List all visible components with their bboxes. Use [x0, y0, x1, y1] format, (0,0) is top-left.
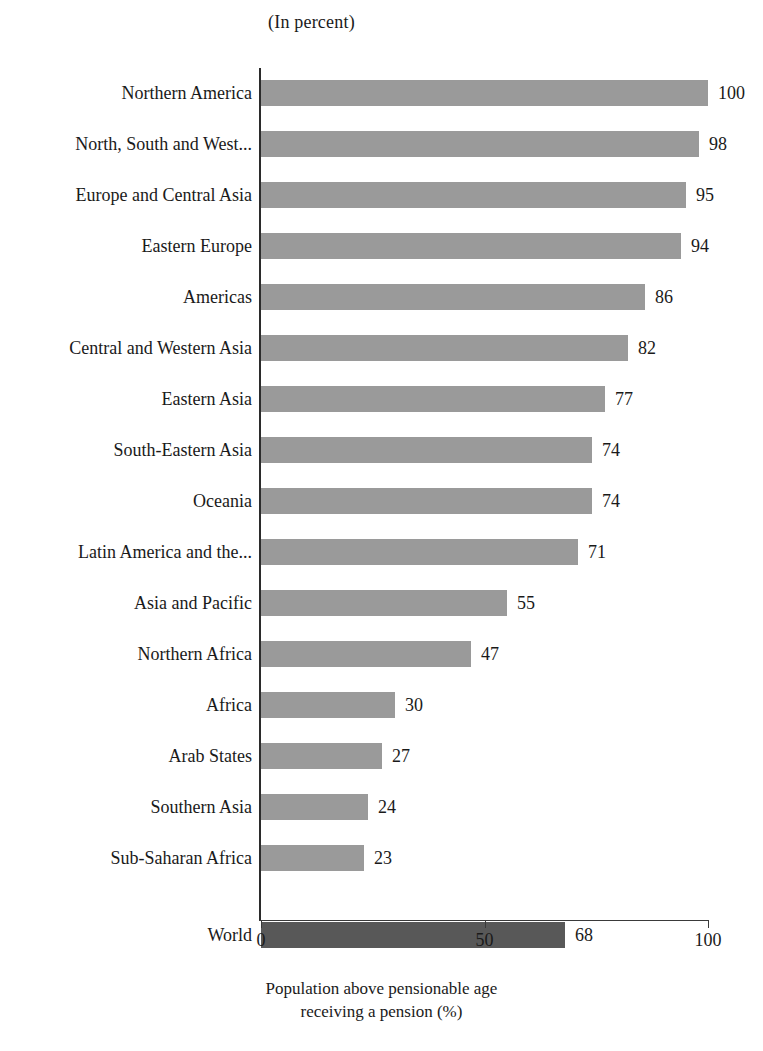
bar	[261, 590, 507, 616]
category-label: World	[207, 926, 252, 944]
bar-row: North, South and West...98	[0, 131, 763, 157]
x-axis-tick-label: 0	[257, 930, 266, 951]
bar-row: Southern Asia24	[0, 794, 763, 820]
bar	[261, 488, 592, 514]
category-label: Eastern Europe	[142, 237, 252, 255]
bar	[261, 233, 681, 259]
bar-value-label: 24	[378, 798, 396, 816]
bar-row: World68	[0, 922, 763, 948]
x-axis-caption-line-1: Population above pensionable age	[0, 978, 763, 1001]
category-label: Northern Africa	[138, 645, 252, 663]
bar-value-label: 95	[696, 186, 714, 204]
bar-row: Arab States27	[0, 743, 763, 769]
x-axis-caption-line-2: receiving a pension (%)	[0, 1001, 763, 1024]
bar	[261, 182, 686, 208]
bar-value-label: 23	[374, 849, 392, 867]
bar-value-label: 71	[588, 543, 606, 561]
category-label: Northern America	[122, 84, 252, 102]
bar-value-label: 94	[691, 237, 709, 255]
bar	[261, 845, 364, 871]
bar	[261, 743, 382, 769]
x-axis-tick-mark	[485, 921, 486, 928]
bar-value-label: 55	[517, 594, 535, 612]
bar-value-label: 77	[615, 390, 633, 408]
x-axis-tick-label: 100	[695, 930, 722, 951]
bar-row: Central and Western Asia82	[0, 335, 763, 361]
bar	[261, 692, 395, 718]
bar-highlight	[261, 922, 565, 948]
bar	[261, 641, 471, 667]
x-axis-tick-mark	[708, 921, 709, 928]
bar-value-label: 27	[392, 747, 410, 765]
x-axis-caption: Population above pensionable age receivi…	[0, 978, 763, 1024]
bar-value-label: 100	[718, 84, 745, 102]
category-label: Southern Asia	[151, 798, 253, 816]
bar	[261, 284, 645, 310]
bar-row: Eastern Europe94	[0, 233, 763, 259]
bar-row: Africa30	[0, 692, 763, 718]
bar	[261, 386, 605, 412]
bar-value-label: 74	[602, 492, 620, 510]
plot-area: Northern America100North, South and West…	[0, 0, 763, 960]
bar-row: Americas86	[0, 284, 763, 310]
category-label: Europe and Central Asia	[76, 186, 252, 204]
bar-value-label: 30	[405, 696, 423, 714]
category-label: Oceania	[193, 492, 252, 510]
category-label: Central and Western Asia	[69, 339, 252, 357]
category-label: Sub-Saharan Africa	[111, 849, 252, 867]
category-label: Africa	[206, 696, 252, 714]
x-axis-tick-label: 50	[476, 930, 494, 951]
category-label: North, South and West...	[75, 135, 252, 153]
bar	[261, 437, 592, 463]
bar-row: Latin America and the...71	[0, 539, 763, 565]
bar-row: Sub-Saharan Africa23	[0, 845, 763, 871]
bar-row: Northern America100	[0, 80, 763, 106]
bar	[261, 539, 578, 565]
bar-value-label: 74	[602, 441, 620, 459]
bar-value-label: 82	[638, 339, 656, 357]
bar-row: Asia and Pacific55	[0, 590, 763, 616]
bar-row: Europe and Central Asia95	[0, 182, 763, 208]
bar	[261, 80, 708, 106]
bar-row: Eastern Asia77	[0, 386, 763, 412]
bar-value-label: 98	[709, 135, 727, 153]
bar-value-label: 86	[655, 288, 673, 306]
bar	[261, 794, 368, 820]
bar-value-label: 47	[481, 645, 499, 663]
bar-chart-figure: (In percent) Northern America100North, S…	[0, 0, 763, 1051]
bar	[261, 131, 699, 157]
bar-value-label: 68	[575, 926, 593, 944]
category-label: Asia and Pacific	[134, 594, 252, 612]
bar	[261, 335, 628, 361]
x-axis-tick-mark	[261, 921, 262, 928]
bar-row: Northern Africa47	[0, 641, 763, 667]
category-label: Eastern Asia	[162, 390, 252, 408]
category-label: Americas	[183, 288, 252, 306]
category-label: Latin America and the...	[78, 543, 252, 561]
bar-row: South-Eastern Asia74	[0, 437, 763, 463]
bar-row: Oceania74	[0, 488, 763, 514]
category-label: South-Eastern Asia	[114, 441, 252, 459]
category-label: Arab States	[169, 747, 252, 765]
